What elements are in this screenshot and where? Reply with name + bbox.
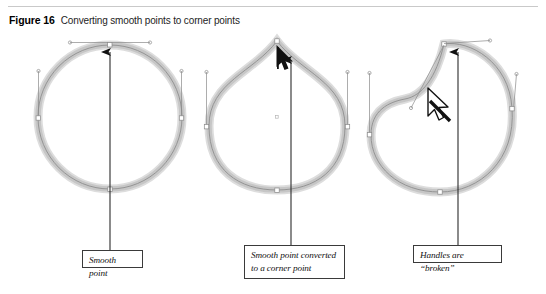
panel-broken-handles — [367, 39, 518, 245]
callout-smooth-point: Smooth point — [82, 250, 143, 268]
bottom-anchor — [438, 190, 442, 194]
callout-corner-point-line2: to a corner point — [251, 263, 311, 273]
callout-corner-point-line1: Smooth point converted — [251, 250, 336, 260]
corner-anchor — [275, 39, 279, 43]
callout-corner-point: Smooth point converted to a corner point — [244, 245, 345, 279]
center-point — [276, 116, 279, 119]
panel-corner-point — [204, 39, 349, 245]
panel-smooth-point — [36, 41, 184, 250]
direct-selection-cursor-icon — [428, 88, 450, 121]
callout-broken-handles: Handles are “broken” — [413, 245, 502, 263]
bottom-anchor — [275, 188, 279, 192]
